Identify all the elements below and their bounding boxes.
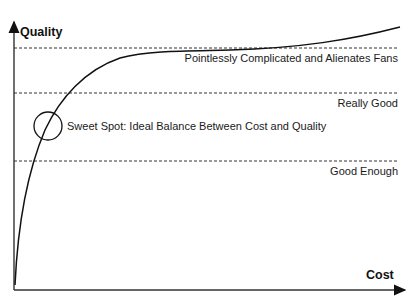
x-axis-label: Cost [366,268,394,282]
sweet-spot-label: Sweet Spot: Ideal Balance Between Cost a… [67,120,326,132]
sweet-spot-circle [34,112,62,140]
good-enough-label: Good Enough [330,165,398,177]
y-axis-label: Quality [20,25,62,39]
top-line-label: Pointlessly Complicated and Alienates Fa… [185,52,398,64]
really-good-label: Really Good [337,97,398,109]
quality-cost-curve [15,27,400,285]
diagram-canvas [0,0,418,302]
